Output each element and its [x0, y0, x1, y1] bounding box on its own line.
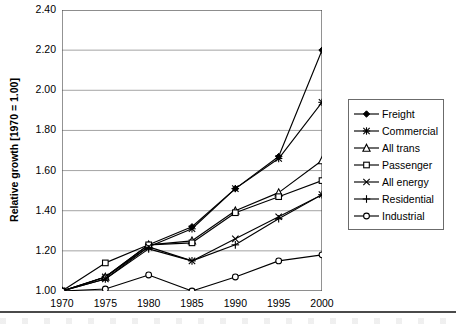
y-tick-label: 2.40	[0, 4, 56, 14]
y-tick-label: 2.00	[0, 84, 56, 94]
legend-item-label: Freight	[380, 108, 415, 120]
y-tick-label: 1.00	[0, 285, 56, 295]
legend-item-label: Industrial	[380, 210, 425, 222]
y-tick-label: 1.20	[0, 245, 56, 255]
open-circle-icon	[353, 209, 380, 223]
asterisk-icon	[353, 124, 380, 138]
data-point-marker	[276, 258, 282, 264]
footer-divider	[0, 311, 456, 313]
legend-item-label: Residential	[380, 193, 434, 205]
legend-item-commercial[interactable]: Commercial	[353, 122, 439, 139]
data-point-marker	[103, 260, 109, 266]
chart-container: Relative growth [1970 = 1.00] 2.402.202.…	[0, 0, 456, 327]
legend-item-label: Commercial	[380, 125, 438, 137]
legend-item-freight[interactable]: Freight	[353, 105, 439, 122]
plus-icon	[353, 192, 380, 206]
series-passenger	[62, 178, 322, 291]
chart-legend: FreightCommercialAll transPassengerAll e…	[348, 99, 444, 230]
data-point-marker	[319, 47, 322, 53]
open-triangle-icon	[353, 141, 380, 155]
footer-faint-text	[0, 318, 456, 324]
data-point-marker	[146, 272, 152, 278]
data-point-marker	[102, 286, 108, 291]
open-square-icon	[353, 158, 380, 172]
legend-item-residential[interactable]: Residential	[353, 190, 439, 207]
data-point-marker	[275, 215, 283, 223]
cross-x-icon	[353, 175, 380, 189]
legend-item-passenger[interactable]: Passenger	[353, 156, 439, 173]
y-tick-label: 1.80	[0, 124, 56, 134]
data-point-marker	[364, 213, 370, 219]
plot-area	[62, 10, 322, 291]
data-point-marker	[276, 194, 282, 200]
legend-item-label: All energy	[380, 176, 429, 188]
filled-diamond-icon	[353, 107, 380, 121]
y-axis-title: Relative growth [1970 = 1.00]	[8, 50, 20, 250]
data-point-marker	[189, 288, 195, 291]
legend-item-label: All trans	[380, 142, 420, 154]
data-point-marker	[188, 225, 195, 232]
legend-item-industrial[interactable]: Industrial	[353, 207, 439, 224]
data-point-marker	[232, 274, 238, 280]
data-point-marker	[189, 240, 195, 246]
data-point-marker	[363, 195, 371, 203]
data-point-marker	[232, 185, 239, 192]
data-point-marker	[319, 252, 322, 258]
data-point-marker	[363, 110, 369, 116]
series-freight	[62, 47, 322, 291]
data-point-marker	[319, 178, 322, 184]
y-tick-label: 1.60	[0, 165, 56, 175]
y-tick-label: 1.40	[0, 205, 56, 215]
legend-item-all-trans[interactable]: All trans	[353, 139, 439, 156]
x-tick-label: 2000	[297, 297, 347, 309]
data-point-marker	[364, 162, 370, 168]
data-point-marker	[275, 155, 282, 162]
legend-item-label: Passenger	[380, 159, 432, 171]
plot-svg	[62, 10, 322, 291]
data-point-marker	[363, 127, 370, 134]
data-point-marker	[318, 157, 322, 164]
legend-item-all-energy[interactable]: All energy	[353, 173, 439, 190]
y-tick-label: 2.20	[0, 44, 56, 54]
data-point-marker	[233, 210, 239, 216]
series-line	[62, 181, 322, 291]
